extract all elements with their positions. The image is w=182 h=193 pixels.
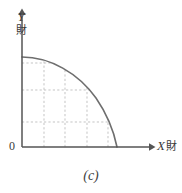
- y-axis-variable-label: Y: [12, 10, 30, 23]
- grid-lines-vertical: [44, 50, 108, 147]
- grid-lines: [22, 50, 125, 147]
- grid-lines-horizontal: [22, 63, 125, 122]
- production-possibility-frontier-curve: [22, 57, 117, 147]
- ppf-figure: Y 財 X 財 0 (c): [0, 0, 182, 193]
- y-axis-label: Y 財: [12, 10, 30, 36]
- y-axis-unit-label: 財: [12, 25, 30, 36]
- x-axis-variable-label: X: [157, 139, 165, 152]
- x-axis-label: X 財: [157, 139, 177, 152]
- x-axis-unit-label: 財: [166, 141, 177, 152]
- figure-caption: (c): [0, 168, 182, 184]
- origin-label: 0: [9, 140, 15, 152]
